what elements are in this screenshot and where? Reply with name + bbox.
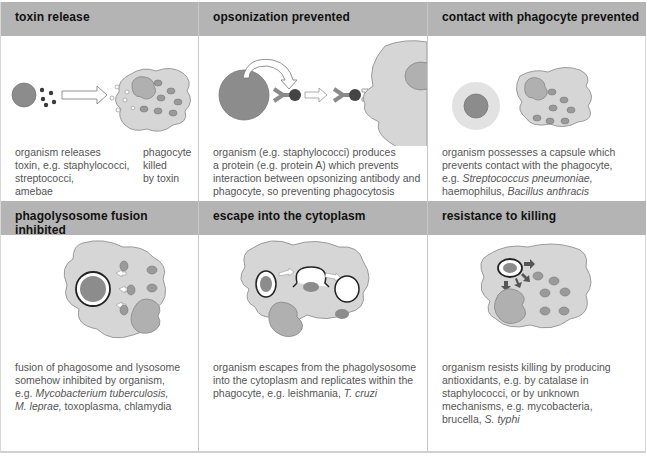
panel-title: opsonization prevented xyxy=(199,2,427,36)
nucleus-icon xyxy=(494,289,525,324)
panel-title: contact with phagocyte prevented xyxy=(428,2,646,36)
panel-caption: organism resists killing by producing an… xyxy=(442,361,640,426)
column-divider xyxy=(198,2,199,451)
panel-caption: organism possesses a capsule which preve… xyxy=(442,146,640,198)
column-divider xyxy=(427,2,428,451)
arrow-icon xyxy=(62,86,107,104)
organism-icon xyxy=(260,276,272,292)
panel-title: phagolysosome fusion inhibited xyxy=(1,201,198,235)
panel-title: resistance to killing xyxy=(428,201,646,235)
resistance-illustration xyxy=(428,235,646,349)
organism-icon xyxy=(12,83,36,107)
phagocyte-icon xyxy=(516,67,591,126)
escape-illustration xyxy=(199,235,427,349)
panel-phagolysosome-fusion-inhibited: phagolysosome fusion inhibited fusion of… xyxy=(1,201,198,451)
organism-icon xyxy=(464,94,488,118)
panel-resistance-to-killing: resistance to killing organism resists k… xyxy=(428,201,646,451)
opsonization-illustration xyxy=(199,36,427,150)
toxin-particles-icon xyxy=(40,88,56,107)
panel-escape-into-cytoplasm: escape into the cytoplasm organism escap… xyxy=(199,201,427,451)
protein-a-icon xyxy=(349,89,361,101)
organism-icon xyxy=(503,263,517,273)
arrow-icon xyxy=(305,88,327,102)
capsule-illustration xyxy=(428,36,646,150)
antibody-icon xyxy=(334,89,351,101)
panel-caption: organism escapes from the phagolysosome … xyxy=(213,361,421,400)
panel-contact-prevented: contact with phagocyte prevented organis… xyxy=(428,2,646,201)
panel-toxin-release: toxin release organism relea xyxy=(1,2,198,201)
panel-caption: organism (e.g. staphylococci) produces a… xyxy=(213,146,421,198)
toxin-release-illustration xyxy=(1,36,198,150)
protein-a-icon xyxy=(289,89,301,101)
organism-icon xyxy=(335,309,349,319)
organism-icon xyxy=(303,282,319,292)
panel-title: escape into the cytoplasm xyxy=(199,201,427,235)
phagocyte-icon xyxy=(363,41,427,146)
antibody-icon xyxy=(274,89,291,101)
panel-caption: fusion of phagosome and lysosome somehow… xyxy=(15,361,192,413)
fusion-inhibited-illustration xyxy=(1,235,198,349)
panel-opsonization-prevented: opsonization prevented organism (e.g. st… xyxy=(199,2,427,201)
organism-icon xyxy=(80,276,106,302)
empty-vacuole-icon xyxy=(335,276,359,302)
panel-caption: organism releases toxin, e.g. staphyloco… xyxy=(15,146,192,198)
panel-title: toxin release xyxy=(1,2,198,36)
